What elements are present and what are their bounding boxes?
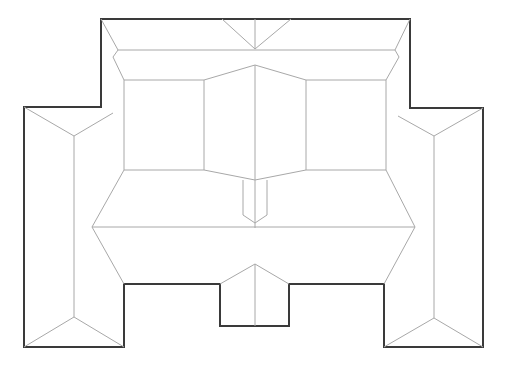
roof-plan-canvas xyxy=(0,0,505,368)
roof-plan-drawing xyxy=(0,0,505,368)
building-outline xyxy=(24,19,483,347)
